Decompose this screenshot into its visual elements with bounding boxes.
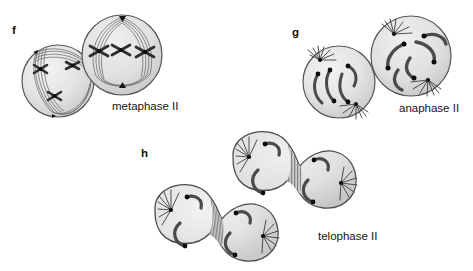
phase-label-metaphase-ii: metaphase II [112, 101, 178, 113]
panel-letter-g: g [292, 27, 299, 39]
anaphase-cell-1 [303, 46, 375, 119]
anaphase-cell-2 [371, 16, 451, 96]
metaphase-cell-2 [82, 15, 162, 95]
phase-label-anaphase-ii: anaphase II [399, 103, 459, 115]
panel-letter-h: h [141, 148, 148, 160]
telophase-dumbbell-upper [233, 132, 357, 209]
panel-letter-f: f [12, 25, 16, 37]
meiosis-diagram-artwork [0, 0, 473, 271]
telophase-dumbbell-lower [155, 185, 279, 262]
phase-label-telophase-ii: telophase II [318, 231, 377, 243]
meiosis-ii-figure: f g h metaphase II anaphase II telophase… [0, 0, 473, 271]
